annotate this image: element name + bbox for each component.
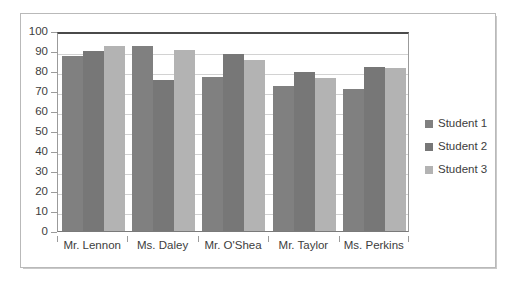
x-axis-tick-label: Mr. O'Shea — [204, 240, 261, 252]
legend-item: Student 1 — [425, 112, 513, 135]
bar-group — [128, 34, 198, 231]
x-axis-tick-label: Mr. Taylor — [279, 240, 329, 252]
y-axis-tick-label: 0 — [42, 226, 48, 238]
y-axis-tick-label: 70 — [35, 86, 48, 98]
legend-swatch-icon — [425, 166, 433, 174]
plot-area — [57, 32, 409, 232]
bar — [62, 56, 83, 231]
bar — [153, 80, 174, 231]
bar — [315, 78, 336, 231]
chart-frame: 1009080706050403020100 Mr. LennonMs. Dal… — [20, 13, 496, 268]
x-axis-tick — [127, 236, 128, 242]
y-axis-tick-label: 100 — [29, 26, 48, 38]
bar-group — [340, 34, 410, 231]
bar — [343, 89, 364, 231]
legend-label: Student 1 — [438, 118, 487, 130]
bar — [385, 68, 406, 231]
x-axis: Mr. LennonMs. DaleyMr. O'SheaMr. TaylorM… — [57, 236, 409, 258]
x-axis-tick — [198, 236, 199, 242]
y-axis-tick-label: 10 — [35, 206, 48, 218]
y-axis-tick-label: 60 — [35, 106, 48, 118]
bar — [364, 67, 385, 231]
bar — [174, 50, 195, 231]
chart-legend: Student 1Student 2Student 3 — [425, 112, 513, 181]
bar-group — [269, 34, 339, 231]
legend-label: Student 3 — [438, 164, 487, 176]
bar — [273, 86, 294, 231]
x-axis-tick — [57, 236, 58, 242]
bar-group — [199, 34, 269, 231]
bar — [223, 54, 244, 231]
y-axis-tick — [51, 232, 57, 233]
legend-swatch-icon — [425, 143, 433, 151]
legend-swatch-icon — [425, 120, 433, 128]
legend-item: Student 3 — [425, 158, 513, 181]
y-axis-tick-label: 90 — [35, 46, 48, 58]
x-axis-tick-label: Ms. Perkins — [344, 240, 404, 252]
y-axis: 1009080706050403020100 — [21, 32, 57, 232]
legend-label: Student 2 — [438, 141, 487, 153]
bar — [104, 46, 125, 231]
legend-item: Student 2 — [425, 135, 513, 158]
bar — [83, 51, 104, 231]
x-axis-tick — [339, 236, 340, 242]
bar — [132, 46, 153, 231]
x-axis-tick — [408, 236, 409, 242]
y-axis-tick-label: 20 — [35, 186, 48, 198]
y-axis-tick-label: 30 — [35, 166, 48, 178]
bar — [202, 77, 223, 231]
x-axis-tick-label: Mr. Lennon — [63, 240, 121, 252]
bar — [294, 72, 315, 231]
y-axis-tick-label: 50 — [35, 126, 48, 138]
x-axis-tick-label: Ms. Daley — [137, 240, 188, 252]
bar-group — [58, 34, 128, 231]
bars-layer — [58, 34, 408, 231]
y-axis-tick-label: 40 — [35, 146, 48, 158]
x-axis-tick — [268, 236, 269, 242]
y-axis-tick-label: 80 — [35, 66, 48, 78]
bar — [244, 60, 265, 231]
